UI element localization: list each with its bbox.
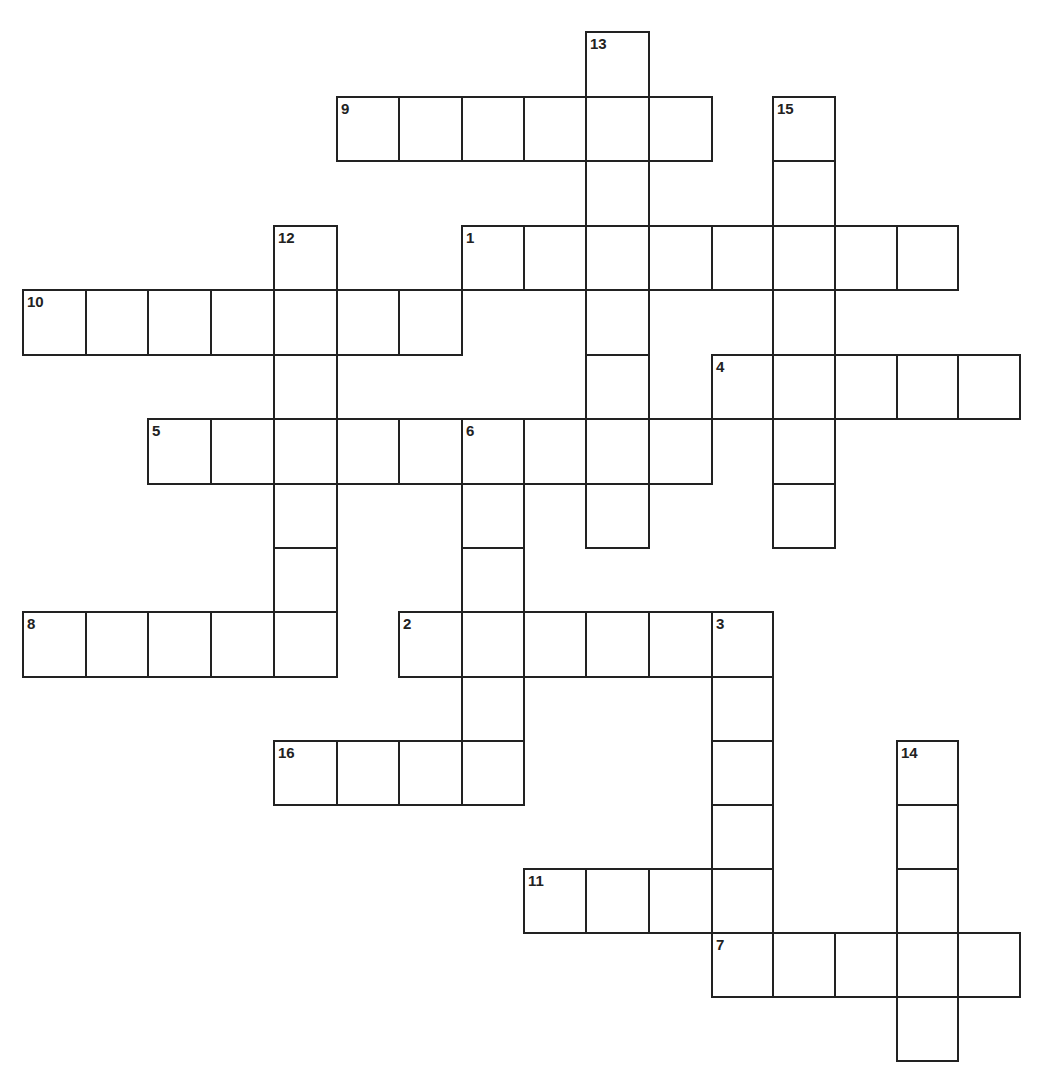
crossword-cell[interactable] <box>957 354 1021 420</box>
letter-input[interactable] <box>898 806 957 868</box>
letter-input[interactable] <box>275 485 336 547</box>
letter-input[interactable] <box>713 613 772 676</box>
crossword-cell[interactable] <box>398 96 463 162</box>
crossword-cell[interactable] <box>585 483 650 549</box>
letter-input[interactable] <box>212 613 273 676</box>
crossword-cell[interactable]: 4 <box>711 354 774 420</box>
letter-input[interactable] <box>24 613 85 676</box>
crossword-cell[interactable] <box>273 418 338 485</box>
letter-input[interactable] <box>24 291 85 354</box>
letter-input[interactable] <box>836 227 896 289</box>
crossword-cell[interactable]: 9 <box>336 96 400 162</box>
letter-input[interactable] <box>587 33 648 96</box>
crossword-cell[interactable]: 8 <box>22 611 87 678</box>
letter-input[interactable] <box>463 549 523 611</box>
crossword-cell[interactable] <box>273 483 338 549</box>
letter-input[interactable] <box>836 934 896 996</box>
letter-input[interactable] <box>149 420 210 483</box>
crossword-cell[interactable] <box>772 483 836 549</box>
crossword-cell[interactable] <box>210 611 275 678</box>
crossword-cell[interactable] <box>834 225 898 291</box>
letter-input[interactable] <box>774 291 834 354</box>
letter-input[interactable] <box>650 227 711 289</box>
letter-input[interactable] <box>275 420 336 483</box>
letter-input[interactable] <box>587 227 648 289</box>
crossword-cell[interactable] <box>273 354 338 420</box>
letter-input[interactable] <box>400 742 461 804</box>
crossword-cell[interactable] <box>896 868 959 934</box>
letter-input[interactable] <box>650 98 711 160</box>
letter-input[interactable] <box>959 934 1019 996</box>
crossword-cell[interactable] <box>957 932 1021 998</box>
letter-input[interactable] <box>400 613 461 676</box>
letter-input[interactable] <box>525 870 585 932</box>
crossword-cell[interactable] <box>711 804 774 870</box>
letter-input[interactable] <box>774 98 834 160</box>
crossword-cell[interactable] <box>336 740 400 806</box>
crossword-cell[interactable] <box>273 289 338 356</box>
crossword-cell[interactable] <box>585 418 650 485</box>
crossword-cell[interactable]: 7 <box>711 932 774 998</box>
crossword-cell[interactable] <box>834 932 898 998</box>
crossword-cell[interactable] <box>772 289 836 356</box>
crossword-cell[interactable] <box>210 289 275 356</box>
letter-input[interactable] <box>87 613 147 676</box>
crossword-cell[interactable] <box>461 740 525 806</box>
crossword-cell[interactable] <box>648 611 713 678</box>
crossword-cell[interactable] <box>648 96 713 162</box>
letter-input[interactable] <box>525 613 585 676</box>
crossword-cell[interactable] <box>461 676 525 742</box>
crossword-cell[interactable] <box>461 547 525 613</box>
crossword-cell[interactable]: 16 <box>273 740 338 806</box>
letter-input[interactable] <box>587 485 648 547</box>
crossword-cell[interactable] <box>147 289 212 356</box>
crossword-cell[interactable]: 5 <box>147 418 212 485</box>
letter-input[interactable] <box>338 98 398 160</box>
crossword-cell[interactable]: 2 <box>398 611 463 678</box>
crossword-cell[interactable] <box>772 932 836 998</box>
crossword-cell[interactable] <box>273 611 338 678</box>
crossword-cell[interactable] <box>648 418 713 485</box>
letter-input[interactable] <box>149 291 210 354</box>
crossword-cell[interactable] <box>523 611 587 678</box>
letter-input[interactable] <box>525 420 585 483</box>
letter-input[interactable] <box>463 485 523 547</box>
letter-input[interactable] <box>275 227 336 289</box>
crossword-cell[interactable] <box>772 354 836 420</box>
crossword-cell[interactable]: 12 <box>273 225 338 291</box>
crossword-cell[interactable] <box>896 932 959 998</box>
crossword-cell[interactable] <box>711 740 774 806</box>
letter-input[interactable] <box>338 420 398 483</box>
crossword-cell[interactable] <box>85 289 149 356</box>
crossword-cell[interactable] <box>210 418 275 485</box>
crossword-cell[interactable] <box>273 547 338 613</box>
crossword-cell[interactable] <box>585 354 650 420</box>
crossword-cell[interactable] <box>398 418 463 485</box>
letter-input[interactable] <box>774 227 834 289</box>
letter-input[interactable] <box>836 356 896 418</box>
letter-input[interactable] <box>774 420 834 483</box>
letter-input[interactable] <box>463 613 523 676</box>
letter-input[interactable] <box>400 98 461 160</box>
crossword-cell[interactable]: 1 <box>461 225 525 291</box>
letter-input[interactable] <box>587 162 648 225</box>
crossword-cell[interactable] <box>585 225 650 291</box>
letter-input[interactable] <box>898 998 957 1060</box>
crossword-cell[interactable] <box>772 225 836 291</box>
letter-input[interactable] <box>587 613 648 676</box>
letter-input[interactable] <box>338 291 398 354</box>
crossword-cell[interactable]: 11 <box>523 868 587 934</box>
letter-input[interactable] <box>713 934 772 996</box>
letter-input[interactable] <box>525 227 585 289</box>
crossword-cell[interactable]: 15 <box>772 96 836 162</box>
crossword-cell[interactable] <box>896 996 959 1062</box>
letter-input[interactable] <box>463 742 523 804</box>
crossword-cell[interactable] <box>896 804 959 870</box>
crossword-cell[interactable] <box>834 354 898 420</box>
letter-input[interactable] <box>898 934 957 996</box>
crossword-cell[interactable] <box>398 289 463 356</box>
crossword-cell[interactable] <box>896 225 959 291</box>
letter-input[interactable] <box>338 742 398 804</box>
crossword-cell[interactable] <box>461 483 525 549</box>
letter-input[interactable] <box>774 485 834 547</box>
